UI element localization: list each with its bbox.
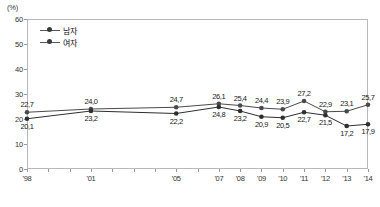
x-tick-mark bbox=[48, 169, 49, 172]
legend-label-male: 남자 bbox=[63, 25, 76, 36]
data-label-male: 22,7 bbox=[21, 100, 34, 109]
y-tick-mark bbox=[24, 94, 27, 95]
y-tick-mark bbox=[24, 69, 27, 70]
legend-marker-female bbox=[40, 42, 60, 43]
data-label-female: 24,8 bbox=[212, 110, 225, 119]
x-tick-mark bbox=[347, 169, 348, 172]
data-label-female: 21,5 bbox=[319, 118, 332, 127]
y-tick-label: 30 bbox=[5, 90, 23, 99]
x-tick-mark bbox=[368, 169, 369, 172]
x-tick-mark bbox=[283, 169, 284, 172]
plot-area bbox=[27, 19, 368, 169]
y-tick-label: 40 bbox=[5, 65, 23, 74]
x-tick-mark bbox=[112, 169, 113, 172]
data-label-female: 23,2 bbox=[234, 114, 247, 123]
data-label-female: 17,9 bbox=[362, 127, 375, 136]
data-label-female: 20,5 bbox=[276, 121, 289, 130]
data-label-male: 24,4 bbox=[255, 96, 268, 105]
data-label-male: 24,0 bbox=[84, 97, 97, 106]
y-tick-label: 0 bbox=[5, 165, 23, 174]
x-tick-mark bbox=[198, 169, 199, 172]
x-tick-label: '98 bbox=[15, 174, 39, 183]
data-label-female: 23,2 bbox=[84, 114, 97, 123]
y-axis-unit-label: (%) bbox=[7, 3, 18, 12]
y-tick-mark bbox=[24, 44, 27, 45]
x-tick-mark bbox=[304, 169, 305, 172]
data-label-female: 20,1 bbox=[21, 122, 34, 131]
data-label-male: 23,9 bbox=[276, 97, 289, 106]
x-tick-mark bbox=[240, 169, 241, 172]
data-label-male: 25,7 bbox=[362, 93, 375, 102]
data-label-male: 24,7 bbox=[170, 95, 183, 104]
x-tick-mark bbox=[325, 169, 326, 172]
x-tick-mark bbox=[91, 169, 92, 172]
data-label-male: 27,2 bbox=[298, 89, 311, 98]
x-tick-mark bbox=[134, 169, 135, 172]
x-tick-label: '05 bbox=[164, 174, 188, 183]
y-tick-mark bbox=[24, 119, 27, 120]
data-label-male: 26,1 bbox=[212, 92, 225, 101]
x-tick-mark bbox=[261, 169, 262, 172]
data-label-male: 23,1 bbox=[340, 99, 353, 108]
y-tick-mark bbox=[24, 19, 27, 20]
x-tick-mark bbox=[219, 169, 220, 172]
x-tick-label: '14 bbox=[356, 174, 380, 183]
y-tick-label: 10 bbox=[5, 140, 23, 149]
legend-marker-male bbox=[40, 30, 60, 31]
data-label-female: 17,2 bbox=[340, 129, 353, 138]
legend-item-male: 남자 bbox=[40, 24, 76, 36]
y-tick-label: 60 bbox=[5, 15, 23, 24]
legend-label-female: 여자 bbox=[63, 37, 76, 48]
x-tick-mark bbox=[155, 169, 156, 172]
data-label-female: 20,9 bbox=[255, 120, 268, 129]
x-tick-mark bbox=[27, 169, 28, 172]
y-tick-label: 50 bbox=[5, 40, 23, 49]
legend: 남자 여자 bbox=[40, 24, 76, 48]
x-tick-label: '01 bbox=[79, 174, 103, 183]
data-label-male: 22,9 bbox=[319, 100, 332, 109]
x-tick-mark bbox=[70, 169, 71, 172]
legend-item-female: 여자 bbox=[40, 36, 76, 48]
y-tick-mark bbox=[24, 144, 27, 145]
data-label-male: 25,4 bbox=[234, 94, 247, 103]
data-label-female: 22,2 bbox=[170, 117, 183, 126]
data-label-female: 22,7 bbox=[298, 115, 311, 124]
x-tick-mark bbox=[176, 169, 177, 172]
